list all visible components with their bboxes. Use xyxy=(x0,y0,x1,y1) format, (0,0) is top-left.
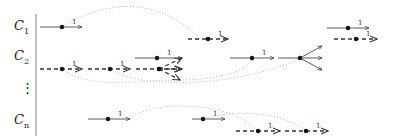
node xyxy=(60,67,64,71)
edge-weight-label: 1 xyxy=(72,60,76,68)
node xyxy=(250,56,254,60)
edge-weight-label: 1 xyxy=(316,122,320,130)
dotted-link xyxy=(62,7,200,39)
node xyxy=(206,37,210,41)
solid-edge: 1 xyxy=(40,18,82,29)
dashed-edge: 1 xyxy=(334,30,377,41)
edge-weight-label: 1 xyxy=(167,49,171,57)
dashed-edge: 1 xyxy=(88,60,130,71)
conflict-graph-diagram: 111111111111 C1 C2 ⋮ Cn xyxy=(0,0,399,140)
dotted-link xyxy=(203,113,306,131)
edge-weight-label: 1 xyxy=(268,122,272,130)
node xyxy=(304,129,308,133)
dashed-edge: 1 xyxy=(40,60,82,71)
row-label-c1: C1 xyxy=(14,18,29,36)
row-label-cn: Cn xyxy=(14,112,29,130)
solid-edge: 1 xyxy=(135,49,182,60)
branch-node xyxy=(298,46,322,70)
edge-weight-label: 1 xyxy=(358,19,362,27)
dotted-links xyxy=(62,7,356,131)
edge-weight-label: 1 xyxy=(366,30,370,38)
edge-weight-label: 1 xyxy=(72,18,76,26)
node xyxy=(354,37,358,41)
row-label-ellipsis: ⋮ xyxy=(21,80,34,95)
node xyxy=(346,26,350,30)
edge-weight-label: 1 xyxy=(213,110,217,118)
solid-edge: 1 xyxy=(327,19,369,30)
edge-weight-label: 1 xyxy=(120,60,124,68)
edges: 111111111111 xyxy=(40,18,377,133)
solid-edge: 1 xyxy=(88,110,130,121)
row-label-c2: C2 xyxy=(14,48,29,66)
dashed-edge: 1 xyxy=(236,122,280,133)
node xyxy=(155,56,159,60)
dashed-edge: 1 xyxy=(285,122,328,133)
solid-edge: 1 xyxy=(230,49,274,60)
node xyxy=(106,117,110,121)
edge-weight-label: 1 xyxy=(218,30,222,38)
node xyxy=(256,129,260,133)
diagram-canvas: 111111111111 xyxy=(0,0,399,140)
solid-edge: 1 xyxy=(192,110,225,121)
dotted-link xyxy=(180,58,252,80)
node xyxy=(60,25,64,29)
dashed-edge: 1 xyxy=(188,30,228,41)
edge-weight-label: 1 xyxy=(118,110,122,118)
edge-weight-label: 1 xyxy=(262,49,266,57)
node xyxy=(108,67,112,71)
dotted-link xyxy=(130,106,258,131)
node xyxy=(201,117,205,121)
